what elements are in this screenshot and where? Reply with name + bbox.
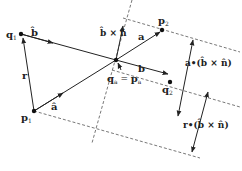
label-a-dot-b-cross-n: a•(b̂ × n̂): [185, 56, 232, 68]
point-p2: [160, 28, 164, 32]
point-qa-pa: [114, 58, 118, 62]
label-b-cross-n: b̂ × n̂: [100, 26, 127, 38]
label-q1: q1: [6, 29, 17, 41]
label-r-dot-b-cross-n: r•(b̂ × n̂): [183, 118, 229, 130]
diagram-svg: q1 p1 p2 q2 qa = pa b̂ b a â r b̂ × n̂ a…: [0, 0, 242, 171]
a-hat-arrow: [34, 93, 63, 111]
label-q2: q2: [162, 84, 173, 96]
label-qa-eq-pa: qa = pa: [107, 73, 142, 85]
point-p1: [32, 109, 36, 113]
point-q1: [19, 32, 23, 36]
label-p1: p1: [21, 112, 32, 124]
dashed-line-through-p1: [34, 111, 200, 158]
a-dot-measure-arrow: [178, 40, 193, 116]
solid-lines: [21, 26, 208, 152]
label-a: a: [138, 31, 145, 42]
label-a-hat: â: [51, 101, 58, 112]
label-b-hat: b̂: [30, 26, 38, 38]
qa-pointer-arrow: [118, 63, 121, 70]
vector-geometry-diagram: q1 p1 p2 q2 qa = pa b̂ b a â r b̂ × n̂ a…: [0, 0, 242, 171]
label-b: b: [138, 63, 145, 74]
label-p2: p2: [158, 15, 169, 27]
points: [19, 28, 172, 113]
label-r: r: [22, 70, 28, 81]
